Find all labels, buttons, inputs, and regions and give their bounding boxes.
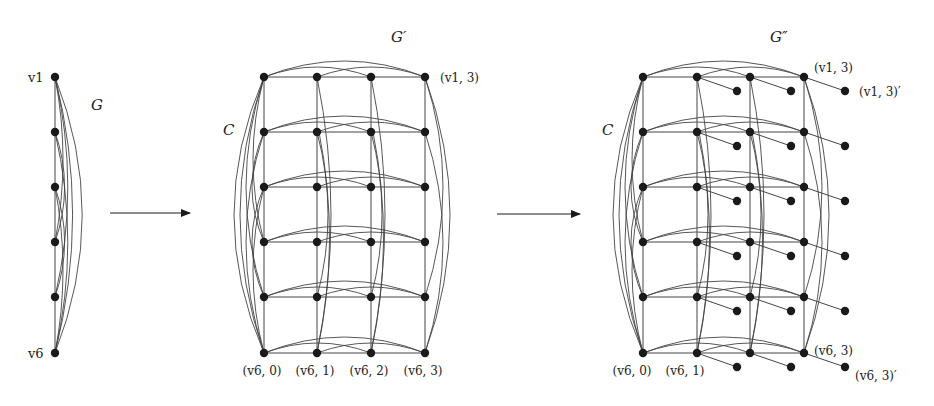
grid-vertex (693, 128, 701, 136)
vertex-v6 (51, 349, 59, 357)
grid-vertex (693, 349, 701, 357)
vertex-v2 (51, 128, 59, 136)
pendant-edge (804, 77, 845, 91)
cycle-c-edge (613, 77, 643, 353)
curved-edge (317, 132, 328, 297)
grid-vertex (367, 128, 375, 136)
grid-vertex (260, 293, 268, 301)
grid-vertex (639, 293, 647, 301)
grid-vertex (313, 349, 321, 357)
grid-vertex (746, 128, 754, 136)
label-v6-0: (v6, 0) (612, 364, 651, 378)
graph-g-title: G (91, 96, 103, 114)
grid-vertex (421, 238, 429, 246)
pendant-vertex (787, 252, 795, 260)
transformation-arrows (110, 213, 580, 214)
pendant-vertex (787, 307, 795, 315)
label-bottom-2: (v6, 2) (349, 364, 388, 378)
grid-vertex (693, 238, 701, 246)
cycle-c-edge (240, 77, 264, 353)
pendant-vertex (787, 142, 795, 150)
grid-vertex (367, 238, 375, 246)
grid-vertex (367, 183, 375, 191)
label-bottom-3: (v6, 3) (403, 364, 442, 378)
pendant-edge (750, 297, 791, 311)
grid-vertex (639, 128, 647, 136)
pendant-vertex (841, 307, 849, 315)
grid-vertex (800, 293, 808, 301)
grid-vertex (313, 183, 321, 191)
pendant-vertex (733, 142, 741, 150)
pendant-edge (804, 242, 845, 256)
grid-vertex (260, 73, 268, 81)
grid-vertex (313, 128, 321, 136)
label-v6-3-prime: (v6, 3)′ (855, 369, 897, 383)
grid-vertex (746, 73, 754, 81)
pendant-edge (697, 187, 737, 201)
graph-g-double-prime-title: G″ (770, 28, 788, 46)
grid-vertex (800, 128, 808, 136)
grid-vertex (800, 349, 808, 357)
pendant-vertex (733, 197, 741, 205)
label-bottom-1: (v6, 1) (295, 364, 334, 378)
curved-edge (425, 77, 450, 353)
labels: v1v6GG′C(v1, 3)(v6, 0)(v6, 1)(v6, 2)(v6,… (27, 28, 901, 383)
label-v6-3: (v6, 3) (814, 344, 853, 358)
grid-vertex (800, 73, 808, 81)
label-v1: v1 (27, 70, 44, 85)
grid-vertex (421, 183, 429, 191)
pendant-vertex (841, 197, 849, 205)
cycle-c-label: C (223, 121, 235, 139)
pendant-vertex (841, 142, 849, 150)
pendant-edge (697, 77, 737, 91)
label-bottom-0: (v6, 0) (242, 364, 281, 378)
pendant-vertex (841, 363, 849, 371)
pendant-vertex (733, 87, 741, 95)
grid-vertex (693, 73, 701, 81)
curved-edge (643, 116, 804, 132)
cycle-c-label: C (602, 121, 614, 139)
grid-vertex (367, 349, 375, 357)
pendant-vertex (841, 252, 849, 260)
pendant-vertex (733, 363, 741, 371)
graph-g (51, 73, 82, 357)
pendant-vertex (787, 87, 795, 95)
grid-vertex (639, 238, 647, 246)
grid-vertex (313, 73, 321, 81)
pendant-edge (804, 132, 845, 146)
cycle-c-edge (234, 77, 264, 353)
curved-edge (643, 226, 804, 242)
pendant-vertex (787, 197, 795, 205)
curved-edge (371, 132, 382, 297)
graph-g-double-prime (613, 61, 849, 371)
grid-vertex (746, 349, 754, 357)
grid-vertex (693, 293, 701, 301)
grid-vertex (746, 183, 754, 191)
pendant-edge (697, 297, 737, 311)
grid-vertex (260, 128, 268, 136)
grid-vertex (639, 183, 647, 191)
grid-vertex (260, 238, 268, 246)
vertex-v3 (51, 183, 59, 191)
grid-vertex (693, 183, 701, 191)
pendant-edge (750, 187, 791, 201)
curved-edge (643, 61, 804, 77)
pendant-edge (750, 77, 791, 91)
grid-vertex (800, 238, 808, 246)
graph-g-prime-title: G′ (391, 28, 407, 46)
grid-vertex (367, 293, 375, 301)
label-v6-1: (v6, 1) (665, 364, 704, 378)
curved-edge (804, 77, 829, 353)
grid-vertex (746, 293, 754, 301)
grid-vertex (421, 73, 429, 81)
pendant-edge (750, 353, 791, 367)
label-v6: v6 (27, 346, 44, 361)
grid-vertex (260, 183, 268, 191)
pendant-edge (697, 132, 737, 146)
pendant-edge (804, 187, 845, 201)
pendant-vertex (787, 363, 795, 371)
pendant-edge (750, 132, 791, 146)
graph-g-prime (234, 61, 450, 357)
label-v1-3: (v1, 3) (440, 71, 479, 85)
pendant-edge (804, 297, 845, 311)
